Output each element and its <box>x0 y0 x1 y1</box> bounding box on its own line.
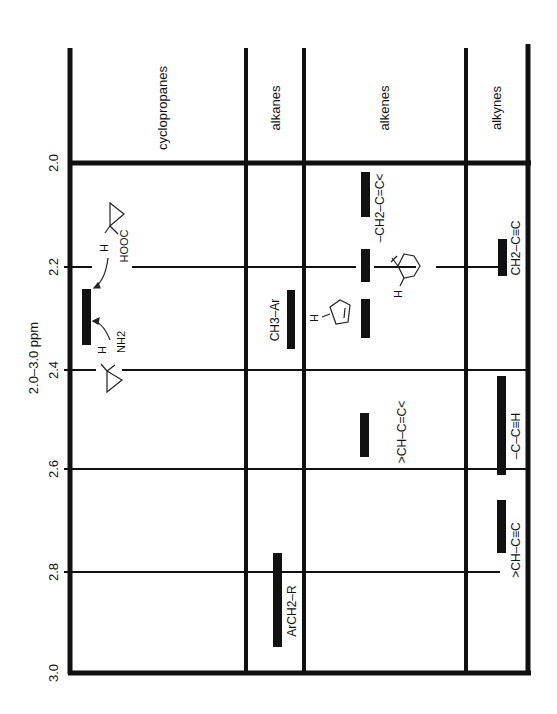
nmr-shift-chart: 2.0 2.2 2.4 2.6 2.8 3.0 2.0–3.0 ppm cycl… <box>0 0 557 714</box>
bar-methylenecyclohexane <box>361 249 370 282</box>
header-alkanes: alkanes <box>268 85 283 130</box>
bar-ch2-c-c <box>361 172 370 217</box>
header-cyclopropanes: cyclopropanes <box>155 66 170 150</box>
grid-lines <box>64 267 528 572</box>
cyclopropane-ring-bottom <box>107 371 122 392</box>
label-ch2-c-c: –CH2–C=C< <box>373 174 387 243</box>
label-arch2-r: ArCH2–R <box>285 585 299 637</box>
label-h-bottom: H <box>96 346 108 354</box>
label-hooc: HOOC <box>118 229 130 262</box>
tick-2.2: 2.2 <box>46 258 61 276</box>
bar-cyclopentene <box>361 299 370 338</box>
label-h-top: H <box>98 244 110 252</box>
tick-labels: 2.0 2.2 2.4 2.6 2.8 3.0 <box>46 154 61 682</box>
tick-2.8: 2.8 <box>46 563 61 581</box>
tick-2.6: 2.6 <box>46 460 61 478</box>
label-ch-c-triple-c: >CH–C≡C <box>509 522 523 578</box>
cyclopentene-structure <box>322 300 350 324</box>
arrow-top <box>94 258 108 288</box>
bar-ch3-ar <box>287 290 295 349</box>
arrow-bottom <box>93 321 110 340</box>
label-nh2: NH2 <box>115 331 127 353</box>
header-alkynes: alkynes <box>489 85 504 130</box>
bar-ch2-c-triple-c <box>498 239 507 276</box>
tick-2.4: 2.4 <box>46 361 61 379</box>
label-ch-c-c: >CH–C=C< <box>395 401 409 463</box>
axis-title: 2.0–3.0 ppm <box>26 322 41 394</box>
label-methylenecyclohexane-h: H <box>392 290 404 298</box>
label-c-c-triple-h: –C–C≡H <box>509 413 523 459</box>
tick-3.0: 3.0 <box>46 664 61 682</box>
tick-2.0: 2.0 <box>46 154 61 172</box>
bar-ch-c-c <box>360 413 369 457</box>
header-alkenes: alkenes <box>377 85 392 130</box>
bar-cyclopropane <box>82 289 91 345</box>
bar-c-c-triple-h <box>497 376 506 475</box>
label-ch3-ar: CH3–Ar <box>268 299 282 342</box>
label-ch2-c-triple-c: CH2–C≡C <box>509 220 523 275</box>
methylenecyclohexane-structure <box>391 254 420 286</box>
column-headers: cyclopropanes alkanes alkenes alkynes <box>155 66 504 150</box>
label-cyclopentene-h: H <box>308 314 320 322</box>
frame <box>68 44 531 674</box>
bar-arch2-r <box>273 553 282 647</box>
range-bars <box>82 172 507 647</box>
cyclopropane-ring-top <box>110 203 124 226</box>
bar-ch-c-triple-c <box>497 500 506 553</box>
